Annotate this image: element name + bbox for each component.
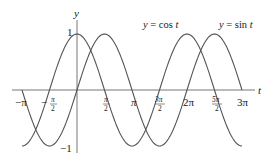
half-pi-den: 2 <box>104 104 108 113</box>
cos-label-t: t <box>175 19 179 30</box>
sine-cosine-plot: y t 1 −1 y = cos t y = sin t −π − π 2 π … <box>0 0 275 163</box>
sin-curve-label: y = sin t <box>218 19 254 30</box>
x-tick-2pi: 2π <box>183 96 195 108</box>
y-axis-label: y <box>73 7 79 19</box>
cos-label-rest: = cos <box>148 19 176 30</box>
y-tick-neg1: −1 <box>60 142 72 154</box>
neg-half-pi-num: π <box>51 95 55 104</box>
x-tick-pi: π <box>131 96 137 108</box>
x-tick-3pi: 3π <box>237 96 249 108</box>
neg-half-pi-minus: − <box>41 96 47 108</box>
x-tick-3half-pi: 3π 2 <box>154 95 165 113</box>
5half-pi-num: 5π <box>212 95 220 104</box>
3half-pi-num: 3π <box>154 95 163 104</box>
3half-pi-den: 2 <box>158 104 162 113</box>
cos-curve-label: y = cos t <box>142 19 179 30</box>
t-axis-label: t <box>258 84 262 96</box>
y-tick-1: 1 <box>67 26 73 38</box>
x-tick-neg-pi: −π <box>15 96 27 108</box>
neg-half-pi-den: 2 <box>51 104 55 113</box>
x-tick-half-pi: π 2 <box>103 95 110 113</box>
5half-pi-den: 2 <box>215 104 219 113</box>
sin-label-t: t <box>250 19 254 30</box>
half-pi-num: π <box>104 95 108 104</box>
sin-label-rest: = sin <box>224 19 250 30</box>
